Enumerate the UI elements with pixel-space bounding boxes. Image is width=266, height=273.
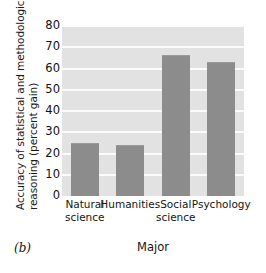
figure-panel-b: Accuracy of statistical and methodologic… — [0, 0, 266, 273]
gridline — [62, 26, 244, 27]
y-axis-tick-label: 40 — [34, 105, 60, 117]
y-axis-tick-label: 10 — [34, 169, 60, 181]
x-axis-tick-labels: NaturalscienceHumanitiesSocialsciencePsy… — [62, 198, 244, 230]
plot-area — [62, 26, 244, 196]
y-axis-tick-label: 60 — [34, 63, 60, 75]
y-axis-title-line-1: Accuracy of statistical and methodologic… — [14, 0, 26, 210]
x-axis-tick-label-line-1: Social — [160, 198, 191, 210]
bar — [71, 143, 99, 196]
gridline — [62, 46, 244, 48]
bar — [162, 55, 190, 196]
y-axis-tick-label: 70 — [34, 42, 60, 54]
y-axis-tick-labels: 01020304050607080 — [34, 0, 60, 215]
y-axis-tick-label: 50 — [34, 84, 60, 96]
y-axis-tick-label: 30 — [34, 127, 60, 139]
bar — [207, 62, 235, 196]
y-axis-tick-label: 80 — [34, 20, 60, 32]
x-axis-tick-label-line-2: science — [52, 211, 118, 224]
x-axis-tick-label-line-2: science — [143, 211, 209, 224]
bar — [116, 145, 144, 196]
y-axis-tick-label: 20 — [34, 148, 60, 160]
x-axis-tick-label-line-1: Psychology — [192, 198, 251, 210]
x-axis-tick-label: Psychology — [188, 198, 254, 211]
panel-label: (b) — [14, 241, 31, 255]
x-axis-title: Major — [62, 240, 244, 254]
